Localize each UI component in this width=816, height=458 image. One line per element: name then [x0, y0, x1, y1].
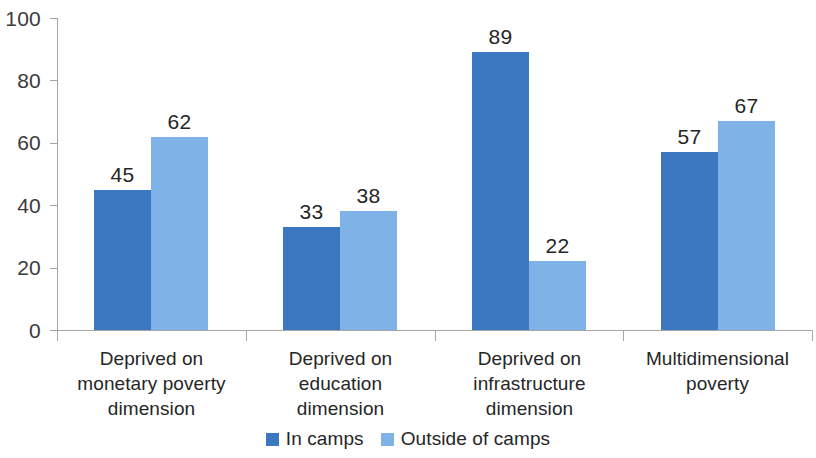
y-axis-tick: 0 [50, 330, 57, 331]
y-axis-tick-mark [50, 330, 57, 331]
x-axis-category-label: Deprived oninfrastructuredimension [435, 346, 624, 421]
plot-area: 4562333889225767 [57, 18, 812, 330]
bar: 33 [283, 227, 340, 330]
bar-value-label: 45 [111, 163, 135, 187]
category-label-line: dimension [57, 396, 246, 421]
bar-value-label: 57 [678, 125, 702, 149]
y-axis-tick-mark [50, 143, 57, 144]
x-axis-tick-mark [57, 330, 58, 341]
bar: 57 [661, 152, 718, 330]
y-axis-tick-label: 40 [17, 194, 41, 218]
y-axis-tick-label: 20 [17, 256, 41, 280]
x-axis-tick-mark [812, 330, 813, 341]
chart-legend: In campsOutside of camps [0, 428, 816, 450]
legend-color-swatch [266, 433, 279, 446]
bar-value-label: 89 [489, 25, 513, 49]
y-axis-tick: 100 [50, 18, 57, 19]
y-axis-tick: 80 [50, 80, 57, 81]
category-label-line: Deprived on [246, 346, 435, 371]
bar-value-label: 33 [300, 200, 324, 224]
bar: 45 [94, 190, 151, 330]
legend-item[interactable]: In camps [266, 428, 364, 450]
x-axis-tick-mark [246, 330, 247, 341]
bar-value-label: 62 [168, 110, 192, 134]
x-axis-tick-mark [623, 330, 624, 341]
y-axis-tick: 40 [50, 205, 57, 206]
legend-label: Outside of camps [401, 428, 550, 450]
category-label-line: dimension [246, 396, 435, 421]
bar-value-label: 22 [546, 234, 570, 258]
legend-label: In camps [286, 428, 364, 450]
category-label-line: Deprived on [435, 346, 624, 371]
y-axis-tick-label: 80 [17, 69, 41, 93]
y-axis-tick: 20 [50, 268, 57, 269]
x-axis-category-label: Multidimensionalpoverty [623, 346, 812, 396]
category-label-line: monetary poverty [57, 371, 246, 396]
category-label-line: Deprived on [57, 346, 246, 371]
category-label-line: education [246, 371, 435, 396]
y-axis-tick-label: 100 [5, 7, 41, 31]
bar: 22 [529, 261, 586, 330]
category-label-line: Multidimensional [623, 346, 812, 371]
x-axis-category-label: Deprived onmonetary povertydimension [57, 346, 246, 421]
y-axis-tick-label: 60 [17, 131, 41, 155]
category-label-line: dimension [435, 396, 624, 421]
bar-value-label: 38 [357, 184, 381, 208]
bar: 89 [472, 52, 529, 330]
category-label-line: poverty [623, 371, 812, 396]
y-axis-tick-mark [50, 268, 57, 269]
y-axis-tick-mark [50, 80, 57, 81]
bar-chart: 020406080100 4562333889225767 Deprived o… [0, 0, 816, 458]
x-axis-tick-mark [435, 330, 436, 341]
bar-value-label: 67 [735, 94, 759, 118]
bar: 38 [340, 211, 397, 330]
y-axis-tick-label: 0 [29, 319, 41, 343]
bar: 67 [718, 121, 775, 330]
legend-color-swatch [381, 433, 394, 446]
x-axis-category-label: Deprived oneducationdimension [246, 346, 435, 421]
y-axis-tick-mark [50, 18, 57, 19]
legend-item[interactable]: Outside of camps [381, 428, 550, 450]
y-axis-tick-mark [50, 205, 57, 206]
bar: 62 [151, 137, 208, 330]
y-axis-tick: 60 [50, 143, 57, 144]
category-label-line: infrastructure [435, 371, 624, 396]
